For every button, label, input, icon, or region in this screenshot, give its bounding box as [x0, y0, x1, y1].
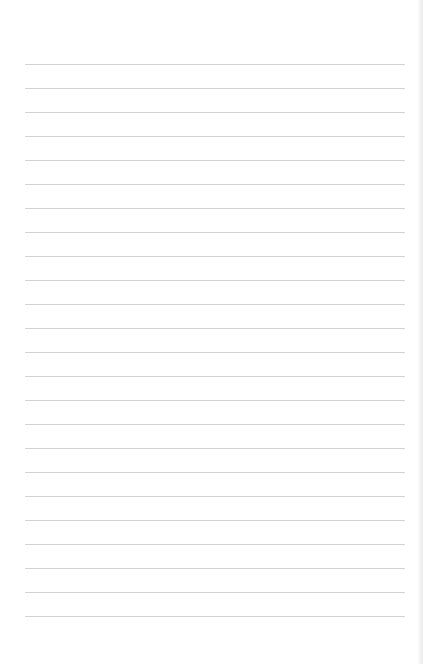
ruled-line: [25, 136, 405, 137]
ruled-line: [25, 568, 405, 569]
ruled-line: [25, 472, 405, 473]
ruled-line: [25, 304, 405, 305]
ruled-line: [25, 64, 405, 65]
ruled-line: [25, 232, 405, 233]
ruled-line: [25, 208, 405, 209]
ruled-line: [25, 616, 405, 617]
ruled-line: [25, 160, 405, 161]
ruled-line: [25, 424, 405, 425]
ruled-line: [25, 280, 405, 281]
ruled-line: [25, 376, 405, 377]
ruled-line: [25, 112, 405, 113]
ruled-line: [25, 328, 405, 329]
ruled-line: [25, 592, 405, 593]
ruled-line: [25, 448, 405, 449]
lined-paper-page: [0, 0, 423, 664]
ruled-line: [25, 496, 405, 497]
ruled-line: [25, 400, 405, 401]
ruled-line: [25, 256, 405, 257]
ruled-line: [25, 352, 405, 353]
ruled-line: [25, 544, 405, 545]
ruled-line: [25, 184, 405, 185]
ruled-line: [25, 520, 405, 521]
ruled-line: [25, 88, 405, 89]
page-edge-shadow: [417, 0, 423, 664]
